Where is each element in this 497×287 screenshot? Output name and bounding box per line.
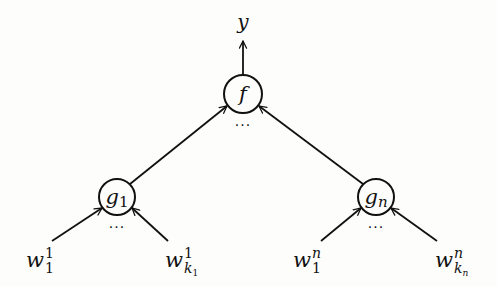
input-w1-n-sup: n (312, 246, 321, 260)
input-w1-n-base: w (293, 248, 311, 272)
edge-wkn-n-to-gn (391, 208, 437, 241)
node-gn-base: g (364, 185, 377, 209)
input-wkn-n-subsub: n (462, 268, 468, 278)
node-gn-subscript: n (378, 193, 388, 211)
edge-gn-to-f (259, 106, 363, 184)
input-wk1-1-base: w (165, 248, 183, 272)
node-gn-label: gn (364, 187, 387, 208)
input-w1-1-sub: 1 (45, 261, 54, 275)
edge-wk1-1-to-g1 (132, 208, 168, 241)
input-wk1-1-subsub: 1 (192, 268, 198, 278)
node-g1-label: g1 (106, 187, 129, 208)
diagram-canvas: y f ··· g1 ··· gn ··· w11 w1k1 wn1 wnkn (0, 0, 497, 287)
input-label-wkn-n: wnkn (435, 250, 468, 275)
input-w1-1-base: w (26, 248, 44, 272)
node-g1-base: g (106, 185, 119, 209)
input-label-w1-n: wn1 (293, 250, 321, 275)
node-g1-subscript: 1 (119, 193, 129, 211)
input-wk1-1-sup: 1 (184, 246, 198, 260)
edge-w1-n-to-gn (321, 208, 361, 241)
input-label-w1-1: w11 (26, 250, 54, 275)
node-f-label: f (239, 84, 247, 105)
input-wkn-n-sup: n (454, 246, 468, 260)
edge-g1-to-f (130, 106, 227, 184)
node-g1-ellipsis: ··· (109, 220, 125, 234)
node-gn-ellipsis: ··· (368, 220, 384, 234)
diagram-graphics (0, 0, 497, 287)
node-f-ellipsis: ··· (235, 118, 251, 132)
input-wkn-n-base: w (435, 248, 453, 272)
output-label-y: y (237, 12, 248, 32)
edge-w1-1-to-g1 (52, 208, 102, 241)
input-w1-1-sup: 1 (45, 246, 54, 260)
input-label-wk1-1: w1k1 (165, 250, 198, 275)
input-w1-n-sub: 1 (312, 261, 321, 275)
